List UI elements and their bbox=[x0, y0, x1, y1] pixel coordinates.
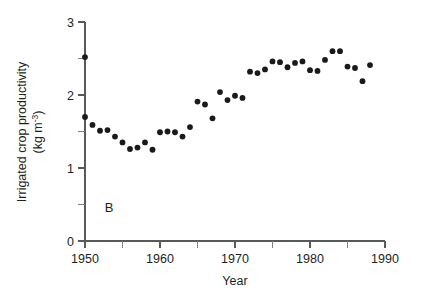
data-point bbox=[97, 128, 103, 134]
data-point bbox=[120, 140, 126, 146]
data-point bbox=[240, 95, 246, 101]
data-point bbox=[217, 89, 223, 95]
data-point bbox=[202, 102, 208, 108]
data-point bbox=[150, 147, 156, 153]
data-point bbox=[232, 93, 238, 99]
data-point bbox=[82, 114, 88, 120]
data-point bbox=[157, 129, 163, 135]
data-point bbox=[165, 129, 171, 135]
data-point bbox=[352, 65, 358, 71]
x-tick-label: 1980 bbox=[296, 252, 324, 266]
data-point bbox=[315, 68, 321, 74]
data-point bbox=[142, 140, 148, 146]
data-point bbox=[195, 99, 201, 105]
y-axis-title-units-suffix: ) bbox=[31, 111, 45, 115]
data-point bbox=[135, 145, 141, 151]
x-axis-ticks bbox=[85, 241, 385, 248]
data-point bbox=[300, 59, 306, 65]
data-point bbox=[180, 134, 186, 140]
data-point bbox=[105, 127, 111, 133]
data-point bbox=[307, 67, 313, 73]
data-point bbox=[127, 146, 133, 152]
y-axis-tick-labels: 0123 bbox=[67, 16, 74, 249]
data-point bbox=[367, 62, 373, 68]
x-tick-label: 1970 bbox=[221, 252, 249, 266]
data-point bbox=[292, 60, 298, 66]
data-point bbox=[112, 134, 118, 140]
data-point bbox=[322, 57, 328, 63]
y-axis-title-units-prefix: (kg m bbox=[31, 122, 45, 153]
data-point bbox=[225, 97, 231, 103]
y-axis-title-line1: Irrigated crop productivity bbox=[15, 61, 29, 202]
data-point bbox=[330, 48, 336, 54]
data-point bbox=[187, 124, 193, 130]
x-axis-title: Year bbox=[222, 274, 247, 288]
data-point bbox=[262, 67, 268, 73]
data-point bbox=[345, 64, 351, 70]
y-tick-label: 1 bbox=[67, 162, 74, 176]
y-tick-label: 3 bbox=[67, 16, 74, 30]
x-axis-tick-labels: 19501960197019801990 bbox=[71, 252, 399, 266]
svg-text:(kg m-3): (kg m-3) bbox=[30, 111, 45, 154]
x-tick-label: 1990 bbox=[371, 252, 399, 266]
data-point bbox=[255, 70, 261, 76]
figure-panel-b: 0123 19501960197019801990 Irrigated crop… bbox=[0, 0, 432, 296]
data-points-layer bbox=[82, 48, 373, 152]
x-tick-label: 1960 bbox=[146, 252, 174, 266]
y-tick-label: 0 bbox=[67, 235, 74, 249]
panel-label: B bbox=[105, 200, 114, 215]
y-axis-title: Irrigated crop productivity (kg m-3) bbox=[15, 61, 45, 202]
data-point bbox=[82, 54, 88, 60]
data-point bbox=[270, 59, 276, 65]
data-point bbox=[90, 122, 96, 128]
data-point bbox=[247, 69, 253, 75]
data-point bbox=[210, 115, 216, 121]
svg-text:Irrigated crop productivity: Irrigated crop productivity bbox=[15, 61, 29, 202]
data-point bbox=[337, 48, 343, 54]
data-point bbox=[360, 78, 366, 84]
scatter-plot: 0123 19501960197019801990 Irrigated crop… bbox=[0, 0, 432, 296]
data-point bbox=[285, 64, 291, 70]
data-point bbox=[172, 129, 178, 135]
data-point bbox=[277, 59, 283, 65]
y-tick-label: 2 bbox=[67, 89, 74, 103]
x-tick-label: 1950 bbox=[71, 252, 99, 266]
